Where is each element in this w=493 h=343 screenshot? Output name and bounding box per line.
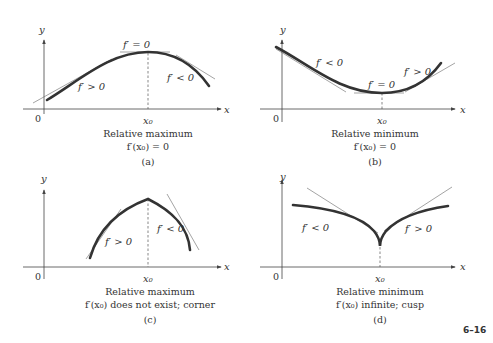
annotation-positive-slope: f′ > 0 xyxy=(403,66,432,77)
panel-title: Relative maximum xyxy=(103,128,193,139)
panel-condition: f′(x₀) = 0 xyxy=(354,141,396,152)
panel-c: y x 0 f′ > 0 f′ < 0 x₀ Relative maximum … xyxy=(23,173,230,325)
panel-condition: f′(x₀) infinite; cusp xyxy=(336,299,424,310)
origin-label: 0 xyxy=(273,113,279,124)
annotation-positive-slope: f′ > 0 xyxy=(104,236,133,247)
tangent-falling xyxy=(276,49,346,92)
extrema-diagram: y x 0 f′ = 0 f′ > 0 f′ < 0 x₀ Relative m… xyxy=(0,0,493,343)
panel-tag: (b) xyxy=(368,156,382,167)
panel-b: y x 0 f′ < 0 f′ = 0 f′ > 0 x₀ Relative m… xyxy=(260,24,466,167)
y-axis-label: y xyxy=(279,24,286,35)
x0-label: x₀ xyxy=(375,273,385,284)
panel-condition: f′(x₀) does not exist; corner xyxy=(85,299,216,310)
y-axis-label: y xyxy=(40,173,47,184)
y-axis-label: y xyxy=(38,24,45,35)
origin-label: 0 xyxy=(273,271,279,282)
x-axis-label: x xyxy=(224,104,230,115)
y-axis-label: y xyxy=(279,171,286,182)
panel-title: Relative maximum xyxy=(105,286,195,297)
x-axis-label: x xyxy=(224,261,230,272)
x0-label: x₀ xyxy=(143,273,153,284)
figure-number: 6–16 xyxy=(463,325,486,335)
origin-label: 0 xyxy=(35,271,41,282)
x-axis-label: x xyxy=(460,104,466,115)
annotation-negative-slope: f′ < 0 xyxy=(166,72,195,83)
annotation-positive-slope: f′ > 0 xyxy=(77,81,106,92)
panel-condition: f′(x₀) = 0 xyxy=(127,141,169,152)
panel-a: y x 0 f′ = 0 f′ > 0 f′ < 0 x₀ Relative m… xyxy=(23,24,230,167)
x0-label: x₀ xyxy=(377,115,387,126)
x0-label: x₀ xyxy=(143,115,153,126)
panel-title: Relative minimum xyxy=(331,128,419,139)
tangent-right xyxy=(167,194,199,250)
origin-label: 0 xyxy=(35,113,41,124)
annotation-negative-slope: f′ < 0 xyxy=(315,57,344,68)
panel-d: y x 0 f′ < 0 f′ > 0 x₀ Relative minimum … xyxy=(260,171,466,325)
panel-title: Relative minimum xyxy=(336,286,424,297)
x-axis-label: x xyxy=(460,261,466,272)
annotation-negative-slope: f′ < 0 xyxy=(156,223,185,234)
annotation-zero-slope: f′ = 0 xyxy=(122,39,151,50)
annotation-negative-slope: f′ < 0 xyxy=(301,222,330,233)
panel-tag: (c) xyxy=(144,314,157,325)
panel-tag: (d) xyxy=(373,314,387,325)
annotation-positive-slope: f′ > 0 xyxy=(404,223,433,234)
panel-tag: (a) xyxy=(141,156,154,167)
annotation-zero-slope: f′ = 0 xyxy=(367,79,396,90)
